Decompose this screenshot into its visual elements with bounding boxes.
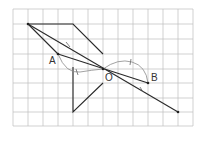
label-A: A	[49, 55, 56, 66]
point-E	[177, 111, 180, 114]
label-B: B	[151, 72, 158, 83]
point-O	[102, 68, 105, 71]
tick-mark-3	[130, 59, 131, 65]
label-O: O	[105, 72, 113, 83]
point-A	[57, 53, 60, 56]
point-P	[27, 23, 30, 26]
geometry-diagram: A O B	[0, 0, 202, 144]
point-B	[147, 82, 150, 85]
